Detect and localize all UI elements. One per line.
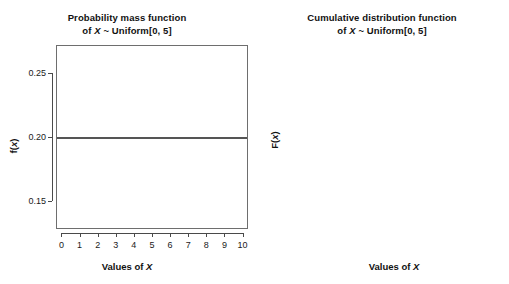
pmf-y-tick-label: 0.15 [22,196,46,206]
pmf-x-tick-label: 10 [238,240,248,250]
pmf-x-tick-label: 1 [77,240,82,250]
pmf-x-tick-label: 3 [113,240,118,250]
cdf-ylabel-variable: x [269,134,280,139]
pmf-y-tick-label: 0.25 [22,68,46,78]
pmf-x-tick-label: 4 [131,240,136,250]
pmf-x-axis-title: Values of X [102,261,153,272]
pmf-x-tick [116,233,117,237]
pmf-x-tick-label: 5 [149,240,154,250]
cdf-title-line2: of X ~ Uniform[0, 5] [255,24,509,37]
cdf-title-prefix: of [337,25,349,36]
cdf-x-axis-title: Values of X [369,261,420,272]
pmf-y-tick [48,73,52,74]
pmf-ylabel-suffix: ) [8,139,19,142]
pmf-y-axis-title: f(x) [8,139,19,154]
pmf-title-line2: of X ~ Uniform[0, 5] [0,24,254,37]
pmf-x-tick [80,233,81,237]
pmf-x-tick-label: 9 [222,240,227,250]
pmf-x-tick-label: 7 [186,240,191,250]
pmf-ylabel-variable: x [8,142,19,147]
cdf-xlabel-variable: X [413,261,419,272]
cdf-title-line1: Cumulative distribution function [255,11,509,24]
pmf-x-tick-label: 2 [95,240,100,250]
pmf-x-tick [61,233,62,237]
pmf-y-tick [48,137,52,138]
pmf-title-suffix: ~ Uniform[0, 5] [101,25,172,36]
pmf-x-tick [134,233,135,237]
pmf-x-tick [224,233,225,237]
cdf-xlabel-prefix: Values of [369,261,413,272]
pmf-xlabel-variable: X [146,261,152,272]
cdf-title-suffix: ~ Uniform[0, 5] [356,25,427,36]
cdf-ylabel-prefix: F( [269,140,280,149]
pmf-density-line [57,137,247,139]
pmf-ylabel-prefix: f( [8,147,19,153]
pmf-x-tick-label: 6 [168,240,173,250]
pmf-x-tick [206,233,207,237]
pmf-x-tick [170,233,171,237]
pmf-x-tick-label: 8 [204,240,209,250]
cdf-y-axis-title: F(x) [269,131,280,148]
pmf-plot-area [56,45,248,229]
pmf-y-axis-line [52,73,53,201]
pmf-xlabel-prefix: Values of [102,261,146,272]
pmf-x-tick-label: 0 [59,240,64,250]
pmf-y-tick [48,201,52,202]
figure-canvas: Probability mass function of X ~ Uniform… [0,0,509,284]
panel-pmf: Probability mass function of X ~ Uniform… [0,0,254,284]
pmf-title-prefix: of [82,25,94,36]
panel-cdf: Cumulative distribution function of X ~ … [255,0,509,284]
pmf-x-tick [188,233,189,237]
cdf-ylabel-suffix: ) [269,131,280,134]
pmf-x-tick [98,233,99,237]
pmf-x-tick [243,233,244,237]
pmf-title-line1: Probability mass function [0,11,254,24]
pmf-y-tick-label: 0.20 [22,132,46,142]
pmf-x-tick [152,233,153,237]
